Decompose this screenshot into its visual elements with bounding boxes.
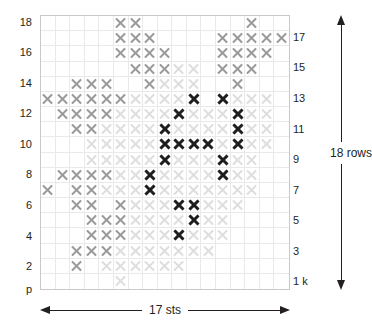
stitch-x-icon	[114, 259, 127, 272]
chart-cell	[56, 228, 71, 243]
chart-cell	[260, 122, 275, 137]
chart-cell	[260, 153, 275, 168]
stitch-x-icon	[246, 62, 259, 75]
row-label-right-9: 9	[293, 154, 327, 165]
chart-cell	[260, 183, 275, 198]
chart-cell	[216, 77, 231, 92]
chart-cell	[99, 259, 114, 274]
stitch-x-icon	[100, 108, 113, 121]
chart-cell	[99, 244, 114, 259]
stitch-x-icon	[158, 168, 171, 181]
chart-cell	[143, 31, 158, 46]
chart-cell	[158, 259, 173, 274]
stitch-x-icon	[216, 168, 229, 181]
row-label-left-14: 14	[2, 78, 32, 89]
chart-cell	[260, 62, 275, 77]
chart-cell	[274, 62, 289, 77]
chart-cell	[85, 168, 100, 183]
stitch-x-icon	[114, 47, 127, 60]
stitch-x-icon	[70, 244, 83, 257]
stitch-x-icon	[114, 123, 127, 136]
chart-cell	[260, 31, 275, 46]
row-label-left-8: 8	[2, 169, 32, 180]
stitch-x-icon	[114, 32, 127, 45]
chart-cell	[158, 168, 173, 183]
stitch-x-icon	[260, 32, 273, 45]
chart-cell	[187, 198, 202, 213]
chart-cell	[274, 16, 289, 31]
stitch-x-icon	[202, 168, 215, 181]
stitch-x-icon	[231, 92, 244, 105]
chart-cell	[85, 92, 100, 107]
chart-cell	[231, 274, 246, 289]
stitch-x-icon	[187, 199, 200, 212]
stitch-x-icon	[246, 47, 259, 60]
stitch-x-icon	[143, 214, 156, 227]
chart-cell	[143, 213, 158, 228]
chart-cell	[187, 107, 202, 122]
chart-cell	[260, 244, 275, 259]
stitch-x-icon	[216, 47, 229, 60]
chart-cell	[158, 183, 173, 198]
chart-cell	[70, 77, 85, 92]
chart-cell	[56, 137, 71, 152]
chart-cell	[216, 274, 231, 289]
chart-cell	[245, 244, 260, 259]
chart-cell	[172, 62, 187, 77]
chart-cell	[70, 259, 85, 274]
stitch-x-icon	[260, 108, 273, 121]
chart-cell	[99, 153, 114, 168]
stitch-x-icon	[85, 244, 98, 257]
chart-cell	[41, 31, 56, 46]
chart-cell	[114, 16, 129, 31]
chart-cell	[201, 46, 216, 61]
chart-cell	[99, 77, 114, 92]
chart-cell	[99, 213, 114, 228]
chart-cell	[158, 137, 173, 152]
chart-cell	[56, 16, 71, 31]
chart-cell	[143, 183, 158, 198]
chart-cell	[201, 31, 216, 46]
chart-cell	[41, 16, 56, 31]
chart-cell	[187, 77, 202, 92]
stitch-x-icon	[129, 214, 142, 227]
chart-cell	[143, 153, 158, 168]
chart-cell	[245, 62, 260, 77]
chart-cell	[172, 198, 187, 213]
chart-cell	[41, 244, 56, 259]
row-label-right-13: 13	[293, 93, 327, 104]
chart-cell	[114, 274, 129, 289]
chart-cell	[201, 213, 216, 228]
chart-cell	[114, 107, 129, 122]
chart-cell	[172, 31, 187, 46]
stitch-x-icon	[231, 62, 244, 75]
chart-cell	[187, 31, 202, 46]
stitch-x-icon	[173, 259, 186, 272]
stitch-x-icon	[143, 108, 156, 121]
chart-cell	[99, 137, 114, 152]
stitch-x-icon	[173, 214, 186, 227]
arrow-head-right-icon	[280, 306, 290, 314]
chart-cell	[70, 16, 85, 31]
stitch-x-icon	[114, 17, 127, 30]
stitch-x-icon	[100, 244, 113, 257]
chart-cell	[114, 137, 129, 152]
stitch-x-icon	[143, 168, 156, 181]
chart-cell	[260, 213, 275, 228]
chart-cell	[274, 153, 289, 168]
chart-cell	[260, 46, 275, 61]
chart-cell	[99, 62, 114, 77]
chart-cell	[231, 62, 246, 77]
chart-cell	[85, 31, 100, 46]
chart-cell	[41, 228, 56, 243]
chart-cell	[158, 62, 173, 77]
chart-cell	[99, 228, 114, 243]
stitch-x-icon	[231, 153, 244, 166]
stitch-x-icon	[158, 229, 171, 242]
row-label-right-5: 5	[293, 215, 327, 226]
stitch-x-icon	[56, 168, 69, 181]
chart-cell	[41, 153, 56, 168]
chart-cell	[245, 122, 260, 137]
chart-cell	[172, 213, 187, 228]
stitch-x-icon	[143, 244, 156, 257]
